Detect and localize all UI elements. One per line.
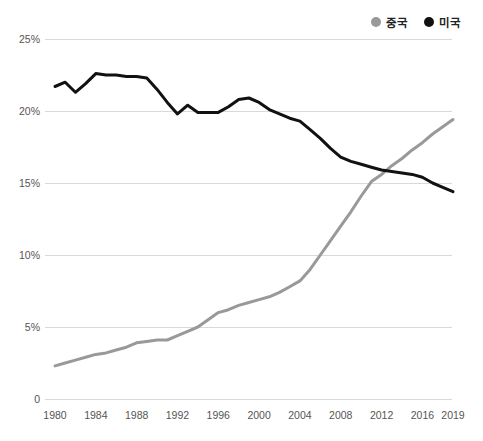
x-tick-label: 2000 bbox=[247, 409, 271, 421]
y-tick-label: 10% bbox=[19, 249, 40, 261]
x-tick-label: 2008 bbox=[329, 409, 353, 421]
x-tick-label: 2012 bbox=[370, 409, 394, 421]
gridlines bbox=[45, 39, 452, 399]
china-legend-dot-icon bbox=[371, 17, 381, 27]
x-tick-label: 2004 bbox=[288, 409, 312, 421]
x-tick-label: 2019 bbox=[441, 409, 465, 421]
usa-line bbox=[55, 74, 453, 192]
y-tick-label: 5% bbox=[25, 321, 40, 333]
x-tick-label: 1988 bbox=[125, 409, 149, 421]
chart-legend: 중국 미국 bbox=[371, 14, 461, 30]
y-tick-label: 15% bbox=[19, 177, 40, 189]
legend-item-china: 중국 bbox=[371, 14, 408, 30]
x-tick-label: 1996 bbox=[207, 409, 231, 421]
x-tick-label: 1984 bbox=[84, 409, 108, 421]
china-line bbox=[55, 120, 453, 366]
y-tick-label: 25% bbox=[19, 33, 40, 45]
x-tick-label: 1992 bbox=[166, 409, 190, 421]
chart-figure: 중국 미국 05%10%15%20%25% 198019841988199219… bbox=[0, 0, 483, 441]
y-axis-labels: 05%10%15%20%25% bbox=[19, 33, 40, 405]
line-chart: 05%10%15%20%25% 198019841988199219962000… bbox=[0, 0, 483, 441]
legend-item-usa: 미국 bbox=[424, 14, 461, 30]
y-tick-label: 20% bbox=[19, 105, 40, 117]
series-lines bbox=[55, 74, 453, 366]
x-axis-labels: 1980198419881992199620002004200820122016… bbox=[43, 409, 465, 421]
y-tick-label: 0 bbox=[34, 393, 40, 405]
legend-label-china: 중국 bbox=[386, 14, 408, 30]
usa-legend-dot-icon bbox=[424, 17, 434, 27]
legend-label-usa: 미국 bbox=[439, 14, 461, 30]
x-tick-label: 1980 bbox=[43, 409, 67, 421]
x-tick-label: 2016 bbox=[411, 409, 435, 421]
